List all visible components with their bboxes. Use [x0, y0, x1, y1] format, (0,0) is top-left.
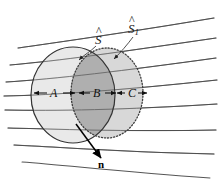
segment-label-a: A — [50, 87, 57, 99]
surface-s1-hatwrap: ^ S — [128, 22, 135, 35]
surface-s-hatwrap: ^ S — [95, 33, 102, 46]
segment-label-c: C — [128, 87, 136, 99]
flow-line-overlay — [14, 145, 214, 154]
figure-canvas — [0, 0, 218, 186]
surface-s-label: ^ S — [95, 33, 102, 46]
hat-accent-icon: ^ — [129, 14, 135, 26]
surface-s1-subscript: 1 — [135, 27, 140, 37]
flow-line — [22, 162, 210, 178]
normal-vector-label: n — [98, 159, 104, 170]
segment-label-b: B — [93, 87, 100, 99]
hat-accent-icon: ^ — [96, 25, 102, 37]
figure-container: ^ S ^ S 1 A B C n — [0, 0, 218, 186]
surface-s1-label: ^ S 1 — [128, 22, 139, 37]
flow-line-overlay — [18, 18, 214, 48]
